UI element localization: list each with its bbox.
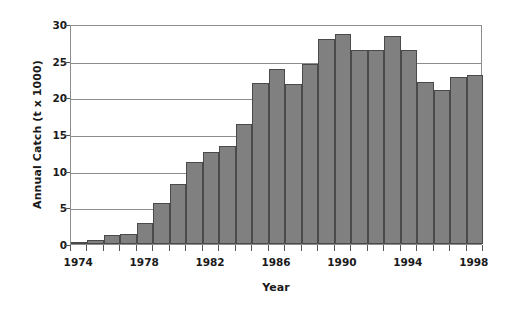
bar: [351, 50, 367, 244]
x-tick-label: 1998: [449, 256, 499, 268]
x-tick-mark: [70, 245, 71, 251]
bar: [203, 152, 219, 244]
x-tick-mark: [449, 245, 450, 251]
bar: [434, 90, 450, 244]
x-tick-mark: [202, 245, 203, 251]
x-tick-mark: [169, 245, 170, 251]
bar: [120, 234, 136, 244]
y-tick-label: 5: [27, 202, 67, 214]
bar: [285, 84, 301, 244]
bar: [467, 75, 483, 244]
x-tick-mark: [136, 245, 137, 251]
x-tick-mark: [317, 245, 318, 251]
bar: [153, 203, 169, 244]
bar: [71, 242, 87, 244]
x-tick-mark: [268, 245, 269, 251]
x-tick-label: 1974: [53, 256, 103, 268]
x-tick-mark: [350, 245, 351, 251]
y-tick-label: 30: [27, 19, 67, 31]
x-tick-mark: [284, 245, 285, 251]
bar: [186, 162, 202, 244]
bar: [269, 69, 285, 244]
x-tick-mark: [86, 245, 87, 251]
bar-chart: Annual Catch (t x 1000) 051015202530 197…: [0, 0, 515, 311]
bar: [302, 64, 318, 244]
bar-series: [71, 26, 481, 244]
x-tick-mark: [466, 245, 467, 251]
y-tick-label: 15: [27, 129, 67, 141]
bar: [87, 240, 103, 244]
bar: [219, 146, 235, 244]
bar: [335, 34, 351, 244]
bar: [170, 184, 186, 244]
x-tick-mark: [482, 245, 483, 251]
x-tick-mark: [251, 245, 252, 251]
x-tick-mark: [367, 245, 368, 251]
x-tick-mark: [218, 245, 219, 251]
x-axis-title: Year: [70, 281, 482, 294]
x-tick-mark: [185, 245, 186, 251]
x-tick-mark: [334, 245, 335, 251]
bar: [104, 235, 120, 244]
y-tick-label: 25: [27, 56, 67, 68]
x-tick-mark: [416, 245, 417, 251]
bar: [368, 50, 384, 244]
x-tick-label: 1982: [185, 256, 235, 268]
x-tick-label: 1986: [251, 256, 301, 268]
x-tick-mark: [103, 245, 104, 251]
x-tick-label: 1990: [317, 256, 367, 268]
y-tick-label: 20: [27, 92, 67, 104]
bar: [252, 83, 268, 244]
y-tick-label: 0: [27, 239, 67, 251]
bar: [401, 50, 417, 244]
bar: [137, 223, 153, 244]
bar: [384, 36, 400, 244]
x-tick-mark: [152, 245, 153, 251]
bar: [318, 39, 334, 244]
x-tick-mark: [400, 245, 401, 251]
bar: [450, 77, 466, 244]
bar: [236, 124, 252, 244]
x-tick-label: 1994: [383, 256, 433, 268]
x-tick-mark: [235, 245, 236, 251]
x-tick-mark: [301, 245, 302, 251]
bar: [417, 82, 433, 244]
x-tick-label: 1978: [119, 256, 169, 268]
x-tick-mark: [119, 245, 120, 251]
x-tick-mark: [383, 245, 384, 251]
plot-area: [70, 25, 482, 245]
y-tick-label: 10: [27, 166, 67, 178]
x-tick-mark: [433, 245, 434, 251]
